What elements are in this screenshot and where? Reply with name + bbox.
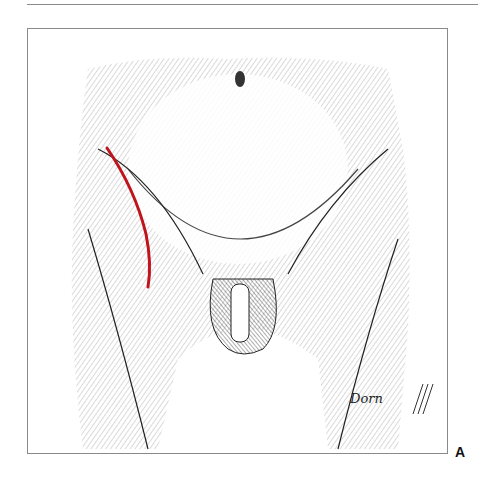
anatomy-illustration xyxy=(28,29,448,454)
illustration-frame: Dorn xyxy=(27,28,448,454)
artist-signature: Dorn xyxy=(350,391,383,406)
panel-label: A xyxy=(455,444,465,460)
top-rule xyxy=(27,4,478,5)
